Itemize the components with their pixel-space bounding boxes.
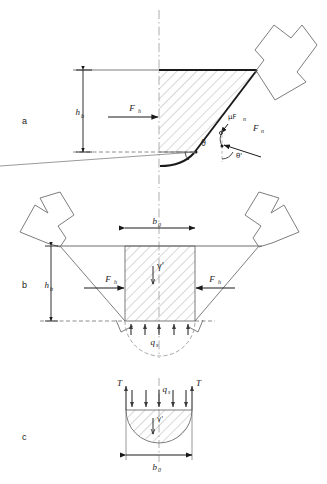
- label-b0-c: b: [153, 462, 158, 472]
- panel-letter-a: a: [22, 116, 27, 126]
- label-theta-a: θ: [201, 139, 206, 148]
- label-fn-a: F: [252, 123, 259, 133]
- soil-column-b: [125, 246, 195, 321]
- label-fn-sub-a: n: [261, 128, 264, 134]
- label-qs-c: q: [163, 384, 168, 394]
- label-hb-sub-a: b: [81, 113, 84, 119]
- label-gamma-c: γ': [157, 415, 163, 423]
- label-fh-left-sub-b: h: [114, 279, 117, 285]
- theta-prime-vertex-a: [221, 145, 224, 148]
- label-fh-sub-a: h: [138, 108, 141, 114]
- panel-letter-b: b: [22, 280, 27, 290]
- label-hb-b: h: [45, 280, 50, 290]
- label-gamma-b: γ': [157, 262, 164, 271]
- label-b0-sub-c: 0: [158, 467, 161, 473]
- label-hb-a: h: [76, 107, 81, 117]
- label-fh-right-sub-b: h: [218, 279, 221, 285]
- label-hb-sub-b: b: [50, 286, 53, 292]
- label-qs-b: q: [151, 337, 156, 347]
- label-fh-right-b: F: [208, 274, 215, 284]
- label-b0-sub-b: 0: [158, 222, 161, 228]
- label-mu-fn-sub-a: n: [243, 116, 246, 122]
- label-theta-prime-a: θ': [236, 152, 242, 160]
- engineering-figure: a h b F h θ: [0, 0, 327, 484]
- label-b0-b: b: [153, 216, 158, 226]
- label-mu-fn-a: μF: [228, 113, 236, 121]
- label-fh-a: F: [128, 103, 135, 113]
- label-fh-left-b: F: [104, 274, 111, 284]
- panel-letter-c: c: [22, 432, 27, 442]
